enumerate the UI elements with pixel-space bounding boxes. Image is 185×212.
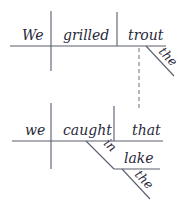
rel-subject: we	[25, 122, 45, 138]
sentence-diagram: We grilled trout the we caught that in l…	[0, 0, 185, 212]
rel-object: that	[132, 122, 161, 138]
main-object-modifier: the	[156, 44, 181, 69]
preposition: in	[101, 136, 120, 155]
main-subject: We	[22, 27, 44, 43]
prep-object: lake	[124, 150, 154, 166]
main-object: trout	[128, 27, 164, 43]
main-verb: grilled	[63, 27, 109, 43]
relative-clause: we caught that in lake the	[12, 103, 163, 199]
main-clause: We grilled trout the	[10, 11, 181, 76]
prep-object-modifier: the	[132, 167, 157, 192]
rel-verb: caught	[63, 122, 112, 138]
